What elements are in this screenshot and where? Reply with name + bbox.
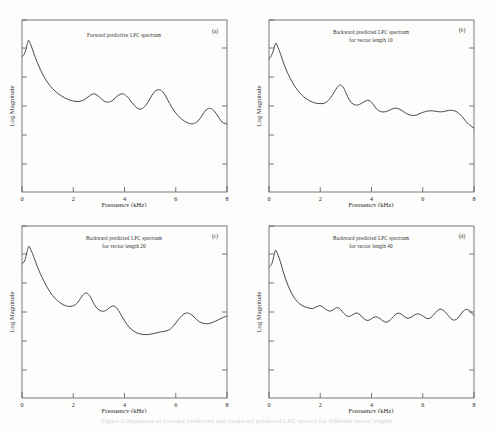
y-axis-title: Log Magnitude [255, 292, 262, 333]
x-tick-label-8: 8 [225, 195, 228, 202]
y-axis-title: Log Magnitude [255, 86, 262, 127]
spectrum-curve-c [22, 246, 227, 335]
y-axis-title: Log Magnitude [8, 86, 15, 127]
panel-b-title-line1: Backward predicted LPC spectrum [333, 29, 409, 35]
x-tick-label-0: 0 [20, 195, 23, 202]
x-axis-title: Frequency (kHz) [349, 407, 394, 413]
x-tick-label-2: 2 [72, 401, 75, 408]
y-axis-ticks [22, 20, 227, 164]
panel-d: Backward predicted LPC spectrum for vect… [247, 206, 494, 413]
panel-c-title-line1: Backward predicted LPC spectrum [86, 235, 162, 241]
panel-d-title-line2: for vector length 40 [349, 243, 393, 249]
panel-b-label: (b) [459, 27, 466, 34]
x-tick-label-6: 6 [421, 195, 424, 202]
x-tick-label-0: 0 [267, 401, 270, 408]
plot-frame [22, 226, 227, 398]
x-tick-label-2: 2 [319, 195, 322, 202]
panel-d-label: (d) [459, 233, 466, 240]
x-tick-label-8: 8 [472, 401, 475, 408]
figure-caption: Figure Comparison of forward predictive … [0, 417, 494, 426]
panel-a-label: (a) [212, 28, 218, 35]
panel-c-title-line2: for vector length 20 [102, 243, 146, 249]
panel-a-title-line1: Forward predictive LPC spectrum [87, 32, 161, 38]
panel-b-plot: Backward predicted LPC spectrum for vect… [247, 0, 494, 207]
panel-d-title-line1: Backward predicted LPC spectrum [333, 235, 409, 241]
panel-d-plot: Backward predicted LPC spectrum for vect… [247, 206, 494, 413]
x-axis-title: Frequency (kHz) [102, 407, 147, 413]
figure-sheet: Forward predictive LPC spectrum (a) 0 2 … [0, 0, 494, 431]
x-tick-label-6: 6 [421, 401, 424, 408]
x-axis-ticks [22, 186, 227, 192]
panel-b: Backward predicted LPC spectrum for vect… [247, 0, 494, 207]
panel-a: Forward predictive LPC spectrum (a) 0 2 … [0, 0, 247, 207]
y-axis-title: Log Magnitude [8, 292, 15, 333]
panel-b-title-line2: for vector length 10 [349, 37, 393, 43]
spectrum-curve-d [269, 250, 474, 322]
x-tick-label-8: 8 [225, 401, 228, 408]
plot-frame [269, 20, 474, 192]
x-tick-label-0: 0 [267, 195, 270, 202]
x-axis-ticks [22, 392, 227, 398]
panel-c: Backward predicted LPC spectrum for vect… [0, 206, 247, 413]
x-tick-label-0: 0 [20, 401, 23, 408]
x-axis-ticks [269, 186, 474, 192]
spectrum-curve-a [22, 40, 227, 124]
panel-a-plot: Forward predictive LPC spectrum (a) 0 2 … [0, 0, 247, 207]
panel-c-label: (c) [212, 233, 218, 240]
x-tick-label-6: 6 [174, 401, 177, 408]
plot-frame [22, 20, 227, 192]
x-tick-label-6: 6 [174, 195, 177, 202]
spectrum-curve-b [269, 43, 474, 128]
x-tick-label-2: 2 [319, 401, 322, 408]
x-axis-ticks [269, 392, 474, 398]
panel-c-plot: Backward predicted LPC spectrum for vect… [0, 206, 247, 413]
x-tick-label-8: 8 [472, 195, 475, 202]
plot-frame [269, 226, 474, 398]
x-tick-label-2: 2 [72, 195, 75, 202]
